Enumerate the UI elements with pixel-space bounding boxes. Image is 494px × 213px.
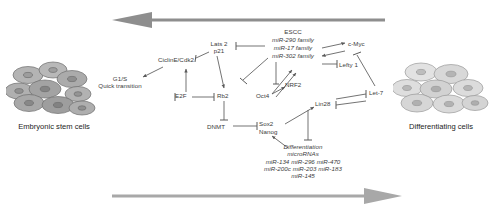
edge-layer [0, 0, 494, 213]
node-escc: ESCC [284, 28, 301, 35]
node-mir302-family: miR-302 family [272, 52, 314, 59]
node-ciclin-cdk2: CiclinE/Cdk2 [158, 56, 194, 63]
node-c-myc: c-Myc [348, 40, 365, 47]
node-lefty1: Lefty 1 [339, 61, 358, 68]
node-g1s-line2: Quick transition [98, 82, 141, 89]
node-diff-mirna-list-3: miR-145 [291, 172, 315, 179]
edge-oct4-to-nrf2 [272, 87, 285, 94]
edge-cmyc-to-let7 [357, 55, 375, 86]
node-g1s: G1/SQuick transition [98, 75, 141, 90]
edge-lats2-to-rb2 [217, 56, 224, 88]
edge-escc-to-cmyc [322, 43, 345, 48]
node-mir290-family: miR-290 family [272, 36, 314, 43]
node-lats2-line1: Lats 2 [210, 40, 227, 47]
edge-ciclin-to-g1s [143, 67, 163, 77]
node-oct4: Oct4 [256, 92, 269, 99]
node-let-7: Let-7 [369, 89, 383, 96]
node-rb2: Rb2 [217, 92, 229, 99]
node-p21-line2: p21 [214, 47, 224, 54]
edge-cmyc-to-escc [322, 51, 345, 56]
node-nrf2: NRF2 [285, 81, 301, 88]
node-dnmt: DNMT [207, 123, 225, 130]
node-nanog: Nanog [259, 128, 277, 135]
edge-escc-to-rb2 [243, 58, 268, 80]
node-sox2: Sox2 [259, 120, 273, 127]
node-g1s-line1: G1/S [113, 75, 127, 82]
node-mir17-family: miR-17 family [274, 44, 312, 51]
edge-lin28-to-let7 [336, 94, 366, 99]
node-e2f: E2F [175, 92, 187, 99]
edge-lats2-to-ciclin [196, 52, 209, 58]
edge-sox2-to-lin28 [285, 107, 314, 124]
node-lats2-p21: Lats 2p21 [210, 40, 227, 55]
node-lin28: Lin28 [315, 100, 330, 107]
edge-let7-to-lin28 [336, 101, 366, 105]
node-microrna-label: microRNAs [287, 150, 319, 157]
pathway-diagram: Embryonic stem cells Differentiating cel… [0, 0, 494, 213]
